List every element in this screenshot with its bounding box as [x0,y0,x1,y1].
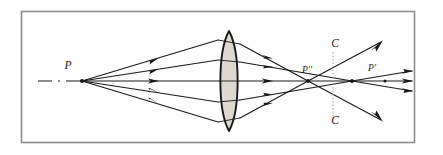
source-point-dot [80,79,84,83]
figure-frame [22,12,415,143]
label-confusion-circle-bottom: C [331,114,339,126]
paraxial-focus-dot [350,79,354,83]
label-source-point: P [63,59,71,71]
optics-figure: P P'' P' C C [0,0,443,155]
label-paraxial-focus: P' [367,63,377,73]
marginal-focus-dot [306,79,310,83]
spherical-aberration-diagram: P P'' P' C C [0,0,443,155]
label-confusion-circle-top: C [331,37,339,49]
label-marginal-focus: P'' [301,65,313,75]
axial-terminal-dot [384,80,387,83]
